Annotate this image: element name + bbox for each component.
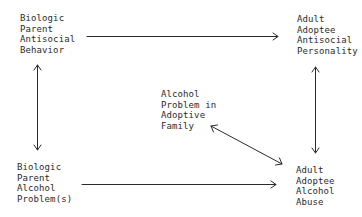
node-label-line: Alcohol [17, 183, 72, 194]
node-label-line: Adoptee [296, 176, 335, 187]
node-label-line: Problem in [161, 100, 216, 111]
edge-adoptive-family-adoptee-alcohol [211, 125, 282, 165]
node-label-line: Abuse [296, 197, 335, 208]
node-label-line: Antisocial [297, 35, 358, 46]
node-label-line: Behavior [20, 45, 75, 56]
node-biologic-parent-alcohol-problems: Biologic Parent Alcohol Problem(s) [17, 162, 72, 204]
node-label-line: Adoptive [161, 110, 216, 121]
node-alcohol-problem-adoptive-family: Alcohol Problem in Adoptive Family [161, 89, 216, 131]
node-label-line: Antisocial [20, 34, 75, 45]
node-label-line: Adult [297, 14, 358, 25]
node-label-line: Biologic [20, 13, 75, 24]
edge-adoptee-antisocial-adoptee-alcohol [312, 67, 319, 153]
node-label-line: Family [161, 121, 216, 132]
edge-bio-antisocial-bio-alcohol [34, 65, 41, 150]
node-label-line: Adoptee [297, 25, 358, 36]
node-label-line: Personality [297, 46, 358, 57]
node-label-line: Biologic [17, 162, 72, 173]
node-label-line: Parent [17, 173, 72, 184]
node-biologic-parent-antisocial-behavior: Biologic Parent Antisocial Behavior [20, 13, 75, 55]
edge-bio-alcohol-to-adoptee-alcohol [82, 181, 276, 188]
node-label-line: Alcohol [296, 186, 335, 197]
node-label-line: Problem(s) [17, 194, 72, 205]
edge-bio-antisocial-to-adoptee-antisocial [87, 33, 278, 40]
node-label-line: Adult [296, 165, 335, 176]
node-adult-adoptee-alcohol-abuse: Adult Adoptee Alcohol Abuse [296, 165, 335, 207]
node-adult-adoptee-antisocial-personality: Adult Adoptee Antisocial Personality [297, 14, 358, 56]
node-label-line: Parent [20, 24, 75, 35]
node-label-line: Alcohol [161, 89, 216, 100]
